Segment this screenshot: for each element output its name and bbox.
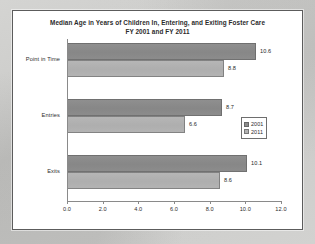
- x-tick-mark-6: [281, 201, 282, 204]
- bar-value-point-in-time-2011: 8.8: [228, 65, 236, 71]
- x-tick-mark-4: [210, 201, 211, 204]
- category-label-exits: Exits: [47, 168, 60, 174]
- legend-item-2011[interactable]: 2011: [244, 128, 263, 135]
- bar-value-point-in-time-2001: 10.6: [260, 48, 271, 54]
- x-tick-mark-1: [103, 201, 104, 204]
- x-tick-mark-0: [67, 201, 68, 204]
- legend-swatch-2001-icon: [244, 122, 249, 127]
- chart-figure: Median Age in Years of Children In, Ente…: [12, 10, 303, 230]
- category-label-point-in-time: Point in Time: [26, 56, 60, 62]
- legend-label-2001: 2001: [251, 121, 263, 127]
- legend-label-2011: 2011: [251, 129, 263, 135]
- chart-legend[interactable]: 2001 2011: [241, 117, 267, 139]
- chart-title-line-2: FY 2001 and FY 2011: [13, 27, 302, 36]
- x-tick-label-6: 12.0: [275, 206, 286, 212]
- x-tick-label-3: 6.0: [170, 206, 178, 212]
- bar-point-in-time-2001[interactable]: [67, 43, 256, 60]
- bar-point-in-time-2011[interactable]: [67, 60, 224, 77]
- legend-item-2001[interactable]: 2001: [244, 121, 263, 128]
- bar-value-exits-2011: 8.6: [224, 177, 232, 183]
- bar-entries-2001[interactable]: [67, 99, 222, 116]
- x-tick-label-0: 0.0: [63, 206, 71, 212]
- bar-exits-2001[interactable]: [67, 155, 247, 172]
- bar-value-exits-2001: 10.1: [251, 160, 262, 166]
- x-tick-label-1: 2.0: [99, 206, 107, 212]
- category-label-entries: Entries: [42, 112, 60, 118]
- x-tick-label-5: 10.0: [240, 206, 251, 212]
- legend-swatch-2011-icon: [244, 129, 249, 134]
- x-tick-mark-3: [174, 201, 175, 204]
- bar-exits-2011[interactable]: [67, 172, 220, 189]
- chart-title: Median Age in Years of Children In, Ente…: [13, 18, 302, 37]
- x-tick-label-4: 8.0: [206, 206, 214, 212]
- bar-value-entries-2001: 8.7: [226, 104, 234, 110]
- y-axis-line: [67, 39, 68, 202]
- bar-value-entries-2011: 6.6: [189, 121, 197, 127]
- chart-title-line-1: Median Age in Years of Children In, Ente…: [13, 18, 302, 27]
- bar-entries-2011[interactable]: [67, 116, 185, 133]
- x-tick-mark-2: [138, 201, 139, 204]
- x-tick-mark-5: [245, 201, 246, 204]
- x-tick-label-2: 4.0: [134, 206, 142, 212]
